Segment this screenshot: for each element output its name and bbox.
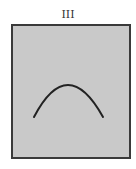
arc-curve [0,0,136,169]
